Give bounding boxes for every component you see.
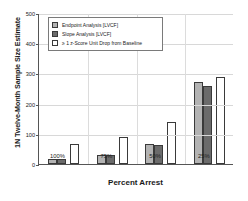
y-axis-tick-mark [36, 135, 39, 136]
y-axis-title: 1N Twelve-Month Sample Size Estimate [13, 8, 22, 158]
x-axis-tick-label: 25% [198, 153, 210, 159]
x-axis-tick-label: 50% [149, 153, 161, 159]
y-axis-tick-label: 500 [26, 11, 35, 17]
y-axis-tick-label: 400 [26, 41, 35, 47]
y-axis-tick-mark [36, 105, 39, 106]
y-axis-tick-label: 300 [26, 71, 35, 77]
bar-group [185, 14, 234, 164]
legend-swatch-icon [52, 31, 58, 37]
bar [57, 159, 66, 164]
legend-label: Endpoint Analysis [LVCF] [62, 22, 118, 28]
y-axis-tick-label: 0 [32, 162, 35, 168]
y-axis-tick-mark [36, 74, 39, 75]
y-axis-tick-label: 200 [26, 102, 35, 108]
legend-item: ≥ 1 z-Score Unit Drop from Baseline [52, 39, 159, 47]
legend-swatch-icon [52, 40, 58, 46]
category-separator [185, 14, 186, 164]
y-axis-tick-mark [36, 14, 39, 15]
x-axis-title: Percent Arrest [38, 178, 233, 187]
bar [194, 82, 203, 164]
chart-figure: 1N Twelve-Month Sample Size Estimate 010… [0, 0, 248, 201]
legend-label: ≥ 1 z-Score Unit Drop from Baseline [62, 40, 142, 46]
legend-item: Slope Analysis [LVCF] [52, 30, 159, 38]
bar [216, 77, 225, 164]
y-axis-tick-mark [36, 165, 39, 166]
bar [167, 122, 176, 164]
y-axis-tick-label: 100 [26, 132, 35, 138]
bar [70, 144, 79, 164]
x-axis-tick-label: 75% [100, 153, 112, 159]
legend-swatch-icon [52, 22, 58, 28]
y-axis-tick-mark [36, 44, 39, 45]
bar [119, 137, 128, 164]
x-axis-tick-label: 100% [50, 153, 65, 159]
bar [48, 159, 57, 164]
legend-item: Endpoint Analysis [LVCF] [52, 21, 159, 29]
legend-label: Slope Analysis [LVCF] [62, 31, 111, 37]
chart-legend: Endpoint Analysis [LVCF]Slope Analysis [… [48, 17, 163, 51]
